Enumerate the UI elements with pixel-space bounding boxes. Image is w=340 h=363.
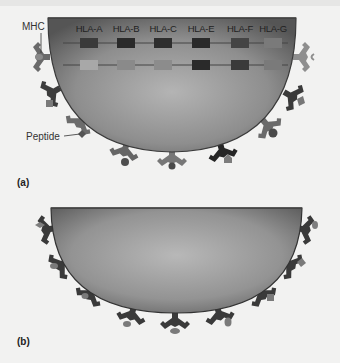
hla-gene-label: HLA-F [227,23,253,34]
hla-gene-label: HLA-B [113,23,139,34]
peptide-pointer [64,134,80,136]
diagram-canvas [0,0,340,363]
peptide-label: Peptide [26,131,60,142]
gene-bar [192,60,210,70]
mhc-label: MHC [22,21,45,32]
panel-a-cell [33,18,314,170]
gene-bar [264,60,282,70]
hla-gene-label: HLA-A [76,23,102,34]
gene-bar [117,38,135,48]
hla-gene-label: HLA-E [188,23,214,34]
gene-bar [154,38,172,48]
gene-bar [231,60,249,70]
gene-bar [192,38,210,48]
gene-bar [80,38,98,48]
gene-bar [117,60,135,70]
hla-gene-label: HLA-C [149,23,176,34]
panel-b-cell [35,208,318,334]
gene-bar [154,60,172,70]
gene-bar [231,38,249,48]
gene-bar [80,60,98,70]
gene-bar [264,38,282,48]
panel-a-label: (a) [17,177,29,188]
panel-b-label: (b) [17,336,30,347]
hla-gene-label: HLA-G [259,23,287,34]
